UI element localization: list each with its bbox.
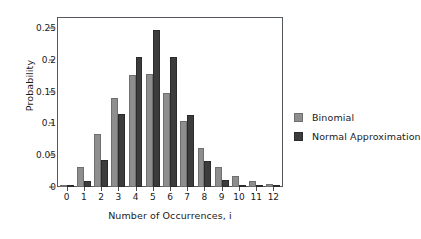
x-tick-mark bbox=[67, 187, 68, 191]
x-tick-mark bbox=[256, 187, 257, 191]
legend-label: Normal Approximation bbox=[312, 131, 421, 142]
bar-normal-approximation-9 bbox=[222, 180, 229, 187]
legend-label: Binomial bbox=[312, 112, 354, 123]
bar-normal-approximation-7 bbox=[187, 115, 194, 187]
bar-normal-approximation-6 bbox=[170, 57, 177, 187]
bar-binomial-4 bbox=[129, 75, 136, 187]
y-tick-label: 0 bbox=[22, 182, 56, 192]
x-axis-ticks: 0123456789101112 bbox=[58, 187, 282, 209]
bar-normal-approximation-3 bbox=[118, 114, 125, 187]
legend-item-binomial: Binomial bbox=[294, 108, 418, 127]
bar-binomial-9 bbox=[215, 167, 222, 187]
x-tick-mark bbox=[222, 187, 223, 191]
y-tick-label: 0.2 bbox=[22, 55, 56, 65]
bar-binomial-5 bbox=[146, 74, 153, 187]
legend-swatch-binomial bbox=[294, 113, 303, 122]
bar-binomial-6 bbox=[163, 93, 170, 187]
x-tick-mark bbox=[101, 187, 102, 191]
bar-normal-approximation-2 bbox=[101, 160, 108, 187]
x-tick-mark bbox=[239, 187, 240, 191]
x-tick-mark bbox=[170, 187, 171, 191]
y-tick-label: 0.05 bbox=[22, 150, 56, 160]
y-tick-label: 0.15 bbox=[22, 87, 56, 97]
bar-binomial-10 bbox=[232, 176, 239, 187]
y-tick-label: 0.1 bbox=[22, 118, 56, 128]
x-tick-mark bbox=[136, 187, 137, 191]
x-tick-mark bbox=[153, 187, 154, 191]
legend-swatch-normal bbox=[294, 132, 303, 141]
x-axis-title: Number of Occurrences, i bbox=[57, 210, 283, 221]
x-tick-mark bbox=[118, 187, 119, 191]
bar-normal-approximation-5 bbox=[153, 30, 160, 187]
x-tick-label: 12 bbox=[258, 192, 288, 202]
x-tick-mark bbox=[204, 187, 205, 191]
y-tick-label: 0.25 bbox=[22, 23, 56, 33]
bar-binomial-7 bbox=[180, 121, 187, 187]
bar-binomial-1 bbox=[77, 167, 84, 187]
x-tick-mark bbox=[273, 187, 274, 191]
x-tick-mark bbox=[187, 187, 188, 191]
bar-normal-approximation-4 bbox=[136, 57, 143, 187]
bar-normal-approximation-8 bbox=[204, 161, 211, 187]
legend-item-normal: Normal Approximation bbox=[294, 127, 418, 146]
bar-binomial-2 bbox=[94, 134, 101, 187]
x-tick-mark bbox=[84, 187, 85, 191]
y-axis-ticks: 00.050.10.150.20.25 bbox=[12, 0, 56, 239]
chart-legend: BinomialNormal Approximation bbox=[294, 108, 418, 146]
bar-binomial-8 bbox=[198, 148, 205, 187]
bar-binomial-3 bbox=[111, 98, 118, 187]
bars-layer bbox=[58, 18, 282, 187]
